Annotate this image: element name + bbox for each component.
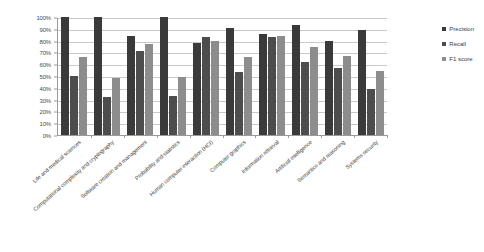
bar-recall [136,51,144,135]
bar-f1 [244,57,252,135]
x-axis-tick-mark [124,135,125,138]
y-axis-tick-label: 40% [40,86,51,92]
y-axis-tick-label: 20% [40,109,51,115]
bar-recall [301,62,309,135]
bar-precision [325,41,333,135]
x-axis-tick-mark [223,135,224,138]
legend-swatch-icon [442,42,446,46]
bar-recall [169,96,177,135]
bar-precision [94,17,102,135]
y-axis-tick-label: 30% [40,98,51,104]
bar-f1 [178,77,186,135]
bar-recall [334,68,342,135]
bar-f1 [343,56,351,135]
y-axis-tick-label: 90% [40,27,51,33]
y-axis-tick-label: 60% [40,62,51,68]
x-axis-label: Systems security [344,139,379,170]
bar-precision [61,17,69,135]
bar-group [58,18,91,135]
bar-f1 [310,47,318,136]
x-axis-tick-mark [91,135,92,138]
y-axis-tick-label: 70% [40,50,51,56]
bar-chart: 100%90%80%70%60%50%40%30%20%10%0% Life a… [0,0,484,252]
x-axis-tick-mark [288,135,289,138]
bar-recall [103,97,111,135]
bar-f1 [211,41,219,135]
bar-precision [226,28,234,135]
legend-item[interactable]: Recall [442,41,474,47]
x-axis-tick-mark [255,135,256,138]
bar-f1 [145,44,153,135]
x-axis-label: Software creation and management [79,139,147,200]
bar-f1 [79,57,87,135]
legend-swatch-icon [442,57,446,61]
bar-group [223,18,256,135]
legend-item[interactable]: Precision [442,26,474,32]
bar-precision [160,17,168,135]
bar-f1 [376,71,384,135]
plot-area [57,18,387,136]
x-axis-tick-mark [190,135,191,138]
x-axis-label: Human computer interaction (HCI) [148,139,214,197]
bar-precision [292,25,300,135]
legend-label: Recall [449,41,466,47]
bar-recall [367,89,375,135]
y-axis-tick-label: 80% [40,39,51,45]
bar-recall [70,76,78,135]
legend-swatch-icon [442,27,446,31]
y-axis: 100%90%80%70%60%50%40%30%20%10%0% [22,18,55,136]
bar-precision [259,34,267,135]
bar-precision [358,30,366,135]
bar-group [255,18,288,135]
bar-f1 [112,78,120,135]
legend-label: Precision [449,26,474,32]
bar-groups [58,18,387,135]
bar-precision [193,43,201,135]
y-axis-tick-label: 50% [40,74,51,80]
bar-group [157,18,190,135]
x-axis-tick-mark [387,135,388,138]
legend-item[interactable]: F1 score [442,56,474,62]
legend: PrecisionRecallF1 score [442,26,474,62]
bar-recall [202,37,210,135]
bar-recall [268,37,276,135]
y-axis-tick-label: 10% [40,121,51,127]
bar-group [354,18,387,135]
bar-precision [127,36,135,135]
bar-group [190,18,223,135]
bar-group [288,18,321,135]
x-axis-tick-mark [354,135,355,138]
x-axis-tick-mark [321,135,322,138]
y-axis-tick-label: 100% [36,15,51,21]
bar-group [321,18,354,135]
y-axis-tick-label: 0% [43,133,51,139]
bar-recall [235,72,243,135]
bar-f1 [277,36,285,135]
bar-group [124,18,157,135]
legend-label: F1 score [449,56,472,62]
bar-group [91,18,124,135]
x-axis-tick-mark [157,135,158,138]
